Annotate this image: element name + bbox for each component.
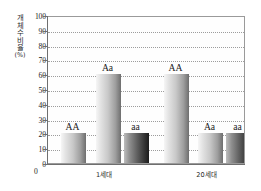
x-axis-line — [47, 164, 245, 165]
origin-label: 0 — [34, 167, 38, 176]
bar — [61, 133, 86, 163]
plot-area — [47, 16, 245, 164]
gridline — [48, 106, 244, 107]
gridline — [48, 61, 244, 62]
bar-value-label: AA — [155, 62, 196, 73]
bar-value-label: aa — [217, 121, 258, 132]
bar — [96, 74, 121, 163]
gridline — [48, 91, 244, 92]
bar — [198, 133, 223, 163]
bar-value-label: AA — [52, 121, 93, 132]
x-axis-category-label: 20세대 — [177, 169, 237, 179]
y-axis-tick-labels: 0102030405060708090100 — [22, 0, 46, 191]
bar — [164, 74, 189, 163]
bar-value-label: Aa — [87, 62, 128, 73]
x-axis-category-label: 1세대 — [74, 169, 134, 179]
y-axis-line — [47, 16, 48, 164]
gridline — [48, 32, 244, 33]
gridline — [48, 47, 244, 48]
bar-value-label: aa — [115, 121, 156, 132]
bar — [124, 133, 149, 163]
bar — [226, 133, 245, 163]
gridline — [48, 76, 244, 77]
bar-chart: 개 체 수 비 율 (%) 0102030405060708090100 0 A… — [0, 0, 261, 191]
